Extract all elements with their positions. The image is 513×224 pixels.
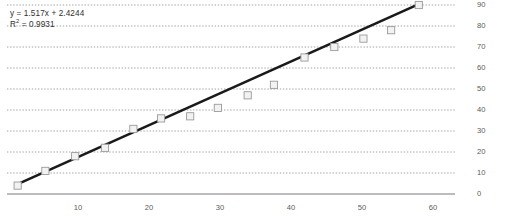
y-axis-tick-label: 90 (477, 0, 485, 9)
data-point-marker (415, 1, 422, 8)
y-axis-tick-label: 0 (477, 189, 481, 198)
r-squared-value: = 0.9931 (19, 20, 54, 29)
y-axis-tick-label: 50 (477, 84, 485, 93)
x-axis-tick-label: 40 (279, 203, 303, 212)
y-axis-tick-label: 40 (477, 105, 485, 114)
x-axis-tick-label: 20 (137, 203, 161, 212)
y-axis-tick-label: 70 (477, 42, 485, 51)
data-point-marker (360, 35, 367, 42)
data-point-marker (72, 153, 79, 160)
data-point-marker (101, 144, 108, 151)
data-point-marker (331, 43, 338, 50)
x-axis-tick-label: 30 (208, 203, 232, 212)
y-axis-tick-label: 20 (477, 147, 485, 156)
y-axis-tick-label: 60 (477, 63, 485, 72)
data-point-marker (130, 125, 137, 132)
x-axis-tick-label: 10 (66, 203, 90, 212)
regression-annotation: y = 1.517x + 2.4244 R2 = 0.9931 (10, 8, 84, 30)
data-point-marker (244, 92, 251, 99)
data-point-marker (214, 104, 221, 111)
data-point-marker (270, 81, 277, 88)
y-axis-tick-label: 80 (477, 21, 485, 30)
y-axis-tick-label: 30 (477, 126, 485, 135)
scatter-chart: y = 1.517x + 2.4244 R2 = 0.9931 01020304… (0, 0, 513, 224)
r-squared-label: R2 = 0.9931 (10, 19, 84, 30)
data-point-marker (14, 182, 21, 189)
plot-area (0, 0, 513, 224)
data-point-marker (42, 167, 49, 174)
regression-equation-label: y = 1.517x + 2.4244 (10, 8, 84, 19)
y-axis-tick-label: 10 (477, 168, 485, 177)
x-axis-tick-label: 50 (350, 203, 374, 212)
x-axis-tick-label: 60 (421, 203, 445, 212)
data-point-marker (301, 54, 308, 61)
data-point-marker (187, 113, 194, 120)
data-point-marker (388, 27, 395, 34)
data-point-marker (157, 115, 164, 122)
